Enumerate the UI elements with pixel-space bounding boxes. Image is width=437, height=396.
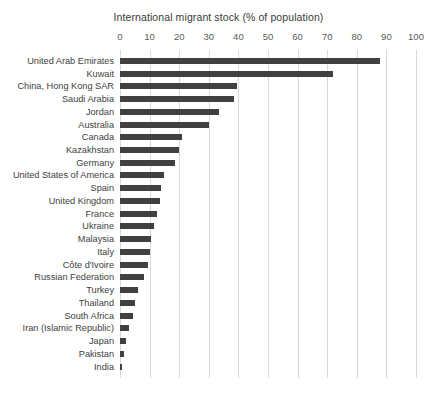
x-tick-label: 80 <box>352 31 363 42</box>
category-label: Australia <box>0 120 114 130</box>
chart-title: International migrant stock (% of popula… <box>0 11 437 23</box>
bar <box>120 300 135 306</box>
bar <box>120 262 148 268</box>
bar <box>120 172 164 178</box>
category-label: United Kingdom <box>0 196 114 206</box>
bar <box>120 287 138 293</box>
bar <box>120 147 179 153</box>
bar <box>120 185 161 191</box>
category-label: Kuwait <box>0 69 114 79</box>
category-label: Italy <box>0 247 114 257</box>
category-label: Pakistan <box>0 349 114 359</box>
bar <box>120 223 154 229</box>
x-tick-label: 0 <box>117 31 122 42</box>
bar <box>120 109 219 115</box>
x-tick-label: 20 <box>174 31 185 42</box>
bars-layer <box>120 50 416 378</box>
category-label: South Africa <box>0 311 114 321</box>
category-label: India <box>0 362 114 372</box>
bar <box>120 160 175 166</box>
x-tick-label: 50 <box>263 31 274 42</box>
category-label: Ukraine <box>0 221 114 231</box>
category-label: Canada <box>0 132 114 142</box>
category-label: United States of America <box>0 170 114 180</box>
category-label: China, Hong Kong SAR <box>0 81 114 91</box>
bar <box>120 325 129 331</box>
bar <box>120 134 182 140</box>
x-tick-label: 10 <box>144 31 155 42</box>
bar <box>120 274 144 280</box>
bar <box>120 236 151 242</box>
category-label: Saudi Arabia <box>0 94 114 104</box>
bar <box>120 351 124 357</box>
bar <box>120 313 133 319</box>
bar <box>120 249 150 255</box>
x-tick-label: 70 <box>322 31 333 42</box>
x-tick-label: 60 <box>292 31 303 42</box>
category-label: Malaysia <box>0 234 114 244</box>
y-axis-category-labels: United Arab EmiratesKuwaitChina, Hong Ko… <box>0 50 114 378</box>
category-label: Thailand <box>0 298 114 308</box>
category-label: Kazakhstan <box>0 145 114 155</box>
bar <box>120 96 234 102</box>
bar <box>120 122 209 128</box>
x-tick-label: 30 <box>204 31 215 42</box>
bar <box>120 58 380 64</box>
category-label: Turkey <box>0 285 114 295</box>
category-label: Iran (Islamic Republic) <box>0 323 114 333</box>
category-label: United Arab Emirates <box>0 56 114 66</box>
bar <box>120 198 160 204</box>
x-tick-label: 40 <box>233 31 244 42</box>
bar-chart: International migrant stock (% of popula… <box>0 0 437 396</box>
category-label: Jordan <box>0 107 114 117</box>
category-label: Germany <box>0 158 114 168</box>
category-label: Côte d'Ivoire <box>0 260 114 270</box>
x-axis-tick-labels: 0102030405060708090100 <box>0 31 437 45</box>
category-label: Japan <box>0 336 114 346</box>
category-label: France <box>0 209 114 219</box>
bar <box>120 211 157 217</box>
bar <box>120 338 126 344</box>
bar <box>120 71 333 77</box>
x-tick-label: 90 <box>381 31 392 42</box>
bar <box>120 83 237 89</box>
x-tick-label: 100 <box>408 31 424 42</box>
category-label: Russian Federation <box>0 272 114 282</box>
category-label: Spain <box>0 183 114 193</box>
bar <box>120 364 122 370</box>
gridline <box>416 50 417 378</box>
